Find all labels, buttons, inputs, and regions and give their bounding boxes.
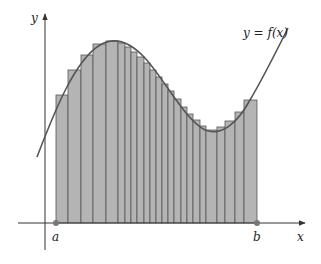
point-b-marker xyxy=(254,220,260,226)
riemann-rectangle xyxy=(68,70,81,223)
riemann-sum-diagram: y x a b y = f(x) xyxy=(0,0,321,264)
y-axis-label: y xyxy=(30,11,38,25)
point-b-label: b xyxy=(253,230,261,244)
riemann-rectangle xyxy=(144,63,150,223)
riemann-rectangle xyxy=(93,44,106,223)
riemann-rectangle xyxy=(235,112,244,223)
riemann-rectangle xyxy=(217,127,225,223)
riemann-rectangles xyxy=(56,41,257,223)
riemann-rectangle xyxy=(162,84,168,223)
point-a-label: a xyxy=(52,230,59,244)
riemann-rectangle xyxy=(137,57,144,223)
riemann-rectangle xyxy=(187,114,193,223)
riemann-rectangle xyxy=(174,99,181,223)
riemann-rectangle xyxy=(125,47,131,223)
curve-label: y = f(x) xyxy=(242,26,288,40)
riemann-rectangle xyxy=(81,55,93,223)
riemann-rectangle xyxy=(244,100,257,223)
riemann-rectangle xyxy=(106,41,118,223)
riemann-rectangle xyxy=(200,126,206,223)
riemann-rectangle xyxy=(181,107,187,223)
riemann-rectangle xyxy=(193,120,200,223)
riemann-rectangle xyxy=(168,91,174,223)
riemann-rectangle xyxy=(206,130,217,223)
riemann-rectangle xyxy=(118,43,125,223)
riemann-rectangle xyxy=(131,52,137,223)
riemann-rectangle xyxy=(56,95,68,223)
riemann-rectangle xyxy=(225,121,235,223)
point-a-marker xyxy=(53,220,59,226)
x-axis-label: x xyxy=(297,230,304,244)
riemann-rectangle xyxy=(156,77,162,223)
riemann-rectangle xyxy=(150,70,156,223)
